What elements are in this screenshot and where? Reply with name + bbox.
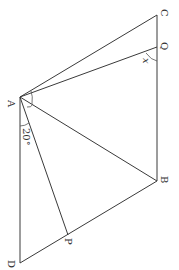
geometry-diagram: A C Q B D P 20° x <box>0 0 179 270</box>
angle-label-x: x <box>141 58 152 64</box>
segment-aq <box>20 47 157 97</box>
angle-label-20: 20° <box>21 128 32 146</box>
segment-ac <box>20 15 157 97</box>
label-a: A <box>6 99 17 108</box>
label-q: Q <box>159 42 170 50</box>
angle-mark-20deg <box>20 123 29 126</box>
label-c: C <box>159 9 170 17</box>
label-d: D <box>6 260 17 268</box>
segment-ap <box>20 97 68 235</box>
label-p: P <box>63 238 74 245</box>
segment-ab <box>20 97 157 181</box>
segment-db <box>20 181 157 263</box>
label-b: B <box>159 176 170 183</box>
